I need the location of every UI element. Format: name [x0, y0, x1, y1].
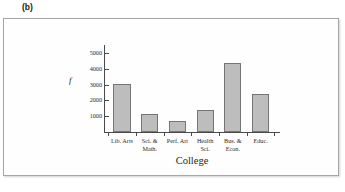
x-axis-category-label-line: Bus. &: [219, 137, 247, 145]
y-axis-tick-label: 3000: [78, 81, 102, 89]
y-axis-tick-label-text: 5000: [90, 49, 102, 56]
x-axis-tick: [274, 133, 275, 136]
x-axis-category-label: HealthSci.: [191, 137, 219, 152]
plot-area: 10002000300040005000 f Lib. ArtsSci. &Ma…: [4, 19, 340, 177]
y-axis-tick-label-text: 1000: [90, 112, 102, 119]
y-axis-tick: [105, 85, 109, 86]
y-axis-tick-label: 2000: [78, 96, 102, 104]
x-axis-category-label-line: Math.: [136, 145, 164, 153]
x-axis-category-label-line: Econ.: [219, 145, 247, 153]
panel-label: (b): [22, 2, 33, 12]
x-axis-category-label-line: Sci.: [191, 145, 219, 153]
x-axis-tick: [108, 133, 109, 136]
figure-frame: 10002000300040005000 f Lib. ArtsSci. &Ma…: [3, 18, 339, 176]
x-axis-title: College: [104, 155, 280, 166]
bar[interactable]: [224, 63, 241, 132]
y-axis-tick-label-text: 3000: [90, 81, 102, 88]
y-axis-line: [104, 45, 105, 133]
y-axis-tick-label: 4000: [78, 65, 102, 73]
x-axis-category-label-line: Lib. Arts: [108, 137, 136, 145]
bar[interactable]: [113, 84, 130, 132]
bar[interactable]: [169, 121, 186, 132]
bar[interactable]: [197, 110, 214, 132]
x-axis-category-label: Perf. Art: [164, 137, 192, 145]
y-axis-tick-label: 1000: [78, 112, 102, 120]
x-axis-category-label-line: Health: [191, 137, 219, 145]
y-axis-tick: [105, 100, 109, 101]
y-axis-title: f: [69, 75, 72, 85]
bar[interactable]: [252, 94, 269, 132]
x-axis-tick: [136, 133, 137, 136]
y-axis-tick-label: 5000: [78, 49, 102, 57]
x-axis-category-label: Bus. &Econ.: [219, 137, 247, 152]
x-axis-category-label-line: Perf. Art: [164, 137, 192, 145]
x-axis-category-label-line: Educ.: [247, 137, 275, 145]
y-axis-tick: [105, 53, 109, 54]
bar[interactable]: [141, 114, 158, 132]
y-axis-tick: [105, 116, 109, 117]
x-axis-category-label-line: Sci. &: [136, 137, 164, 145]
x-axis-category-label: Sci. &Math.: [136, 137, 164, 152]
x-axis-category-label: Educ.: [247, 137, 275, 145]
y-axis-tick: [105, 69, 109, 70]
y-axis-tick-label-text: 4000: [90, 65, 102, 72]
x-axis-tick: [247, 133, 248, 136]
y-axis-tick-label-text: 2000: [90, 96, 102, 103]
x-axis-category-label: Lib. Arts: [108, 137, 136, 145]
x-axis-tick: [191, 133, 192, 136]
x-axis-tick: [219, 133, 220, 136]
x-axis-tick: [164, 133, 165, 136]
